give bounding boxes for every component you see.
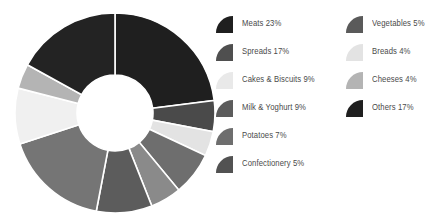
donut-slice[interactable] — [115, 13, 214, 108]
legend-item-label: Milk & Yoghurt 9% — [242, 104, 306, 112]
legend-item-label: Cakes & Biscuits 9% — [242, 76, 315, 84]
legend-swatch-icon — [216, 44, 233, 61]
legend-item-label: Others 17% — [372, 104, 414, 112]
legend-item-label: Breads 4% — [372, 48, 410, 56]
legend-item[interactable]: Cakes & Biscuits 9% — [216, 66, 319, 94]
legend-column-1: Meats 23% Spreads 17% Cakes & Biscuits 9… — [216, 10, 319, 178]
donut-slice-group — [15, 13, 215, 213]
donut-chart-figure: Meats 23% Spreads 17% Cakes & Biscuits 9… — [0, 0, 448, 220]
donut-svg — [15, 13, 215, 213]
legend-swatch-icon — [216, 156, 233, 173]
legend-swatch-icon — [216, 72, 233, 89]
legend-swatch-icon — [346, 16, 363, 33]
legend-item[interactable]: Spreads 17% — [216, 38, 319, 66]
legend-item[interactable]: Vegetables 5% — [346, 10, 428, 38]
chart-legend: Meats 23% Spreads 17% Cakes & Biscuits 9… — [216, 10, 448, 210]
legend-swatch-icon — [216, 16, 233, 33]
legend-item-label: Cheeses 4% — [372, 76, 417, 84]
legend-column-2: Vegetables 5% Breads 4% Cheeses 4% Other… — [346, 10, 428, 122]
donut-chart-graphic — [15, 13, 215, 213]
legend-item-label: Potatoes 7% — [242, 132, 287, 140]
legend-item-label: Meats 23% — [242, 20, 281, 28]
legend-item[interactable]: Breads 4% — [346, 38, 428, 66]
legend-item[interactable]: Meats 23% — [216, 10, 319, 38]
legend-swatch-icon — [216, 128, 233, 145]
legend-item[interactable]: Confectionery 5% — [216, 150, 319, 178]
legend-item[interactable]: Potatoes 7% — [216, 122, 319, 150]
legend-item-label: Spreads 17% — [242, 48, 289, 56]
legend-item[interactable]: Others 17% — [346, 94, 428, 122]
legend-swatch-icon — [346, 44, 363, 61]
legend-item[interactable]: Milk & Yoghurt 9% — [216, 94, 319, 122]
legend-swatch-icon — [216, 100, 233, 117]
legend-item-label: Vegetables 5% — [372, 20, 425, 28]
legend-swatch-icon — [346, 72, 363, 89]
legend-swatch-icon — [346, 100, 363, 117]
legend-item[interactable]: Cheeses 4% — [346, 66, 428, 94]
legend-item-label: Confectionery 5% — [242, 160, 304, 168]
